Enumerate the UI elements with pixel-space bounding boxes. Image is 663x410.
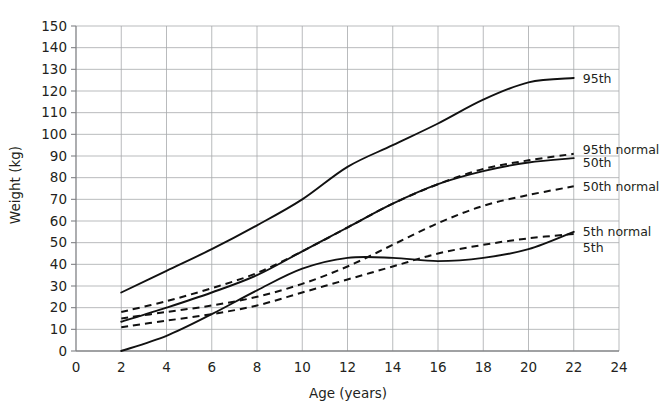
series-label-95th: 95th [583, 71, 612, 86]
y-tick-label: 40 [50, 256, 67, 272]
y-tick-label: 50 [50, 234, 67, 250]
series-label-5th: 5th [583, 240, 604, 255]
y-tick-label: 80 [50, 169, 67, 185]
x-tick-labels: 024681012141618202224 [72, 359, 628, 375]
y-tick-label: 30 [50, 278, 67, 294]
y-tick-label: 150 [41, 18, 67, 34]
x-axis-title: Age (years) [309, 385, 387, 401]
x-tick-label: 14 [384, 359, 401, 375]
series-label-50th: 50th [583, 155, 612, 170]
y-tick-labels: 0102030405060708090100110120130140150 [41, 18, 67, 359]
weight-for-age-percentile-chart: 0102030405060708090100110120130140150 02… [0, 0, 663, 410]
y-tick-label: 100 [41, 126, 67, 142]
x-tick-label: 16 [429, 359, 446, 375]
y-tick-label: 130 [41, 61, 67, 77]
chart-canvas: 0102030405060708090100110120130140150 02… [0, 0, 663, 410]
y-tick-label: 10 [50, 321, 67, 337]
x-tick-label: 4 [162, 359, 171, 375]
x-tick-label: 18 [475, 359, 492, 375]
x-tick-label: 10 [294, 359, 311, 375]
axis-tickmarks [71, 26, 76, 351]
x-gridlines [121, 26, 619, 351]
x-tick-label: 12 [339, 359, 356, 375]
y-tick-label: 90 [50, 148, 67, 164]
x-tick-label: 20 [520, 359, 537, 375]
series-label-5th-normal: 5th normal [583, 224, 652, 239]
x-tick-label: 0 [72, 359, 81, 375]
series-label-50th-normal: 50th normal [583, 179, 660, 194]
y-tick-label: 110 [41, 104, 67, 120]
x-tick-label: 6 [207, 359, 216, 375]
y-tick-label: 60 [50, 213, 67, 229]
y-tick-label: 120 [41, 83, 67, 99]
x-tick-label: 22 [565, 359, 582, 375]
y-tick-label: 0 [58, 343, 67, 359]
y-tick-label: 70 [50, 191, 67, 207]
y-tick-label: 140 [41, 39, 67, 55]
y-axis-title: Weight (kg) [7, 146, 23, 224]
x-tick-label: 24 [610, 359, 627, 375]
x-tick-label: 2 [117, 359, 126, 375]
y-tick-label: 20 [50, 299, 67, 315]
series-annotation-labels: 95th95th normal50th50th normal5th normal… [583, 71, 660, 255]
x-tick-label: 8 [253, 359, 262, 375]
